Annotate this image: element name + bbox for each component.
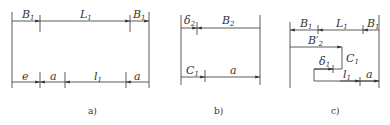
dim-label: L1 [79, 8, 92, 22]
figure-caption: c) [331, 106, 340, 116]
figure-c: B1 L1 B1 B′2 C1 δ1 l1 a c) [290, 15, 380, 116]
dim-label: l1 [94, 70, 102, 84]
dim-label: a [50, 70, 57, 83]
dim-label: a [134, 70, 141, 83]
dim-label: B1 [132, 8, 146, 22]
dim-label: B1 [366, 17, 380, 31]
dim-label: B1 [21, 8, 35, 22]
dimension-diagram: B1 L1 B1 e a l1 a a) δ2 B2 C1 a b) [0, 0, 390, 125]
dim-label: C1 [346, 52, 359, 66]
dim-label: B2 [221, 14, 235, 28]
figure-caption: a) [88, 106, 97, 116]
dim-label: e [22, 70, 29, 83]
dim-label: C1 [186, 64, 199, 78]
dim-label: a [230, 64, 237, 77]
figure-caption: b) [214, 106, 223, 116]
dim-label: B′2 [307, 34, 324, 48]
dim-label: δ2 [184, 14, 196, 28]
dim-label: B1 [299, 17, 313, 31]
figure-b: δ2 B2 C1 a b) [181, 14, 260, 116]
dim-label: L1 [335, 17, 348, 31]
dim-label: l1 [343, 68, 351, 82]
dim-label: δ1 [319, 55, 330, 69]
dim-label: a [366, 68, 373, 81]
figure-a: B1 L1 B1 e a l1 a a) [12, 8, 149, 116]
